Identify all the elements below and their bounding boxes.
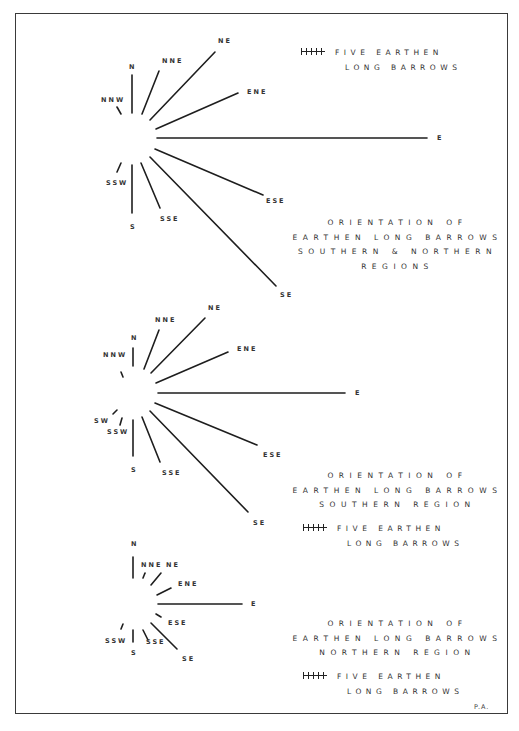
direction-label-ssw: SSW <box>106 180 128 187</box>
direction-label-ne: NE <box>208 305 222 312</box>
rose-northern <box>121 557 242 649</box>
direction-label-n: N <box>131 335 138 342</box>
legend-southern: FIVE EARTHEN LONG BARROWS <box>303 521 463 551</box>
caption-line: SOUTHERN REGION <box>285 498 510 513</box>
legend-line: LONG BARROWS <box>303 684 463 699</box>
tally-scale-icon <box>303 675 327 682</box>
orientation-line-nne <box>144 330 159 369</box>
orientation-line-nnw <box>121 372 123 377</box>
tally-scale-icon <box>303 527 327 534</box>
orientation-line-sw <box>113 410 117 414</box>
orientation-line-ese <box>155 403 257 445</box>
legend-northern: FIVE EARTHEN LONG BARROWS <box>303 669 463 699</box>
direction-label-se: SE <box>182 656 195 663</box>
legend-line: FIVE EARTHEN <box>335 48 443 57</box>
direction-label-e: E <box>355 390 361 397</box>
orientation-line-sse <box>142 417 160 462</box>
legend-line: LONG BARROWS <box>301 60 461 75</box>
direction-label-sse: SSE <box>146 639 166 646</box>
caption-line: EARTHEN LONG BARROWS <box>285 632 510 647</box>
direction-label-ese: ESE <box>263 452 283 459</box>
orientation-line-ene <box>156 93 238 129</box>
caption-line: NORTHERN REGION <box>285 646 510 661</box>
legend-line: FIVE EARTHEN <box>337 524 445 533</box>
direction-label-nne: NNE <box>162 58 183 65</box>
caption-northern: ORIENTATION OF EARTHEN LONG BARROWS NORT… <box>285 617 510 661</box>
direction-label-e: E <box>251 601 257 608</box>
caption-line: ORIENTATION OF <box>285 469 510 484</box>
direction-label-ese: ESE <box>266 198 286 205</box>
direction-label-ssw: SSW <box>107 429 129 436</box>
direction-label-ene: ENE <box>237 346 257 353</box>
direction-label-e: E <box>437 135 443 142</box>
legend-line: LONG BARROWS <box>303 536 463 551</box>
orientation-line-ene <box>157 588 171 595</box>
direction-label-ene: ENE <box>247 89 267 96</box>
orientation-line-sse <box>141 163 160 208</box>
direction-label-se: SE <box>253 520 266 527</box>
direction-label-nnw: NNW <box>101 97 125 104</box>
direction-label-sse: SSE <box>160 216 180 223</box>
orientation-line-ssw <box>120 418 122 425</box>
direction-label-n: N <box>129 64 136 71</box>
caption-line: SOUTHERN & NORTHERN <box>285 245 510 260</box>
direction-label-sw: SW <box>94 418 110 425</box>
direction-label-s: S <box>131 467 138 474</box>
orientation-line-ne <box>151 573 161 585</box>
legend-top: FIVE EARTHEN LONG BARROWS <box>301 45 461 75</box>
legend-line: FIVE EARTHEN <box>337 672 445 681</box>
caption-line: REGIONS <box>285 260 510 275</box>
orientation-line-nnw <box>117 107 121 114</box>
caption-line: EARTHEN LONG BARROWS <box>285 484 510 499</box>
caption-line: ORIENTATION OF <box>285 617 510 632</box>
caption-line: ORIENTATION OF <box>285 216 510 231</box>
caption-combined: ORIENTATION OF EARTHEN LONG BARROWS SOUT… <box>285 216 510 274</box>
orientation-line-nne <box>143 573 145 578</box>
tally-scale-icon <box>301 51 325 58</box>
caption-line: EARTHEN LONG BARROWS <box>285 231 510 246</box>
direction-label-nne: NNE <box>141 562 162 569</box>
direction-label-sse: SSE <box>162 470 182 477</box>
direction-label-s: S <box>131 650 138 657</box>
orientation-line-ssw <box>121 624 123 629</box>
direction-label-nnw: NNW <box>103 352 127 359</box>
orientation-line-se <box>150 411 248 512</box>
direction-label-ne: NE <box>166 562 180 569</box>
direction-label-s: S <box>130 224 137 231</box>
artist-signature: P.A. <box>474 703 489 711</box>
direction-label-nne: NNE <box>155 317 176 324</box>
orientation-line-ese <box>156 614 161 617</box>
orientation-line-ese <box>155 149 263 195</box>
direction-label-ene: ENE <box>178 581 198 588</box>
direction-label-ese: ESE <box>168 620 188 627</box>
orientation-line-ssw <box>117 163 121 172</box>
caption-southern: ORIENTATION OF EARTHEN LONG BARROWS SOUT… <box>285 469 510 513</box>
direction-label-ne: NE <box>218 38 232 45</box>
direction-label-n: N <box>131 541 138 548</box>
orientation-line-nne <box>142 71 159 114</box>
direction-label-se: SE <box>280 292 293 299</box>
direction-label-ssw: SSW <box>105 638 127 645</box>
